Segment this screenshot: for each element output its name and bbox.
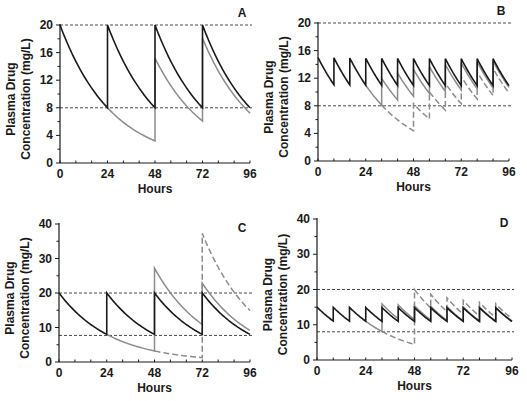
- x-tick-label: 48: [148, 366, 162, 380]
- y-tick-label: 8: [46, 101, 53, 115]
- x-tick-label: 24: [359, 364, 373, 378]
- y-tick-label: 16: [40, 46, 54, 60]
- y-axis-title-line-1: Concentration (mg/L): [277, 36, 291, 157]
- y-tick-label: 0: [304, 154, 311, 168]
- x-tick-label: 96: [505, 364, 519, 378]
- y-tick-label: 10: [39, 321, 53, 335]
- y-tick-label: 12: [298, 71, 312, 85]
- y-axis-title-line-1: Concentration (mg/L): [19, 38, 33, 159]
- y-tick-label: 8: [304, 99, 311, 113]
- panel-b: 048121620024487296HoursPlasma DrugConcen…: [262, 4, 516, 194]
- x-tick-label: 96: [243, 167, 257, 181]
- y-tick-label: 4: [46, 128, 53, 142]
- y-tick-label: 20: [297, 283, 311, 297]
- series-line-0: [60, 25, 250, 108]
- x-tick-label: 0: [314, 364, 321, 378]
- x-tick-label: 72: [455, 165, 469, 179]
- y-tick-label: 30: [39, 252, 53, 266]
- x-tick-label: 48: [148, 167, 162, 181]
- y-tick-label: 40: [39, 217, 53, 231]
- x-tick-label: 0: [315, 165, 322, 179]
- x-tick-label: 72: [196, 366, 210, 380]
- y-axis-title-line-1: Concentration (mg/L): [18, 237, 32, 358]
- y-tick-label: 4: [304, 126, 311, 140]
- panel-c: 010203040024487296HoursPlasma DrugConcen…: [3, 217, 257, 395]
- x-tick-label: 24: [359, 165, 373, 179]
- x-axis-title: Hours: [138, 182, 173, 196]
- y-tick-label: 16: [298, 44, 312, 58]
- x-axis-title: Hours: [137, 381, 172, 395]
- x-tick-label: 0: [56, 366, 63, 380]
- y-tick-label: 10: [297, 318, 311, 332]
- x-tick-label: 96: [502, 165, 516, 179]
- series-line-1: [108, 38, 251, 141]
- panel-d: 010203040024487296HoursPlasma DrugConcen…: [261, 212, 519, 393]
- y-tick-label: 0: [303, 353, 310, 367]
- y-tick-label: 20: [40, 18, 54, 32]
- series-line-0: [59, 293, 250, 334]
- x-tick-label: 0: [57, 167, 64, 181]
- pharmacokinetic-figure: 048121620024487296HoursPlasma DrugConcen…: [0, 0, 527, 401]
- y-tick-label: 30: [297, 247, 311, 261]
- x-tick-label: 72: [196, 167, 210, 181]
- x-tick-label: 24: [100, 366, 114, 380]
- y-tick-label: 20: [298, 16, 312, 30]
- y-axis-title-line-0: Plasma Drug: [4, 62, 18, 135]
- series-line-0: [318, 58, 509, 86]
- x-tick-label: 96: [243, 366, 257, 380]
- x-tick-label: 72: [457, 364, 471, 378]
- series-line-1: [107, 268, 250, 351]
- x-axis-title: Hours: [397, 379, 432, 393]
- x-tick-label: 48: [408, 364, 422, 378]
- panel-letter: B: [497, 4, 506, 18]
- y-tick-label: 20: [39, 286, 53, 300]
- panel-letter: C: [238, 221, 247, 235]
- y-tick-label: 12: [40, 73, 54, 87]
- x-tick-label: 24: [101, 167, 115, 181]
- y-axis-title-line-1: Concentration (mg/L): [276, 234, 290, 355]
- y-axis-title-line-0: Plasma Drug: [262, 60, 276, 133]
- panel-letter: D: [500, 216, 509, 230]
- y-axis-title-line-0: Plasma Drug: [3, 261, 17, 334]
- panel-letter: A: [238, 6, 247, 20]
- x-tick-label: 48: [407, 165, 421, 179]
- panel-a: 048121620024487296HoursPlasma DrugConcen…: [4, 6, 257, 196]
- y-tick-label: 40: [297, 212, 311, 226]
- y-tick-label: 0: [45, 355, 52, 369]
- x-axis-title: Hours: [396, 180, 431, 194]
- y-axis-title-line-0: Plasma Drug: [261, 258, 275, 331]
- y-tick-label: 0: [46, 156, 53, 170]
